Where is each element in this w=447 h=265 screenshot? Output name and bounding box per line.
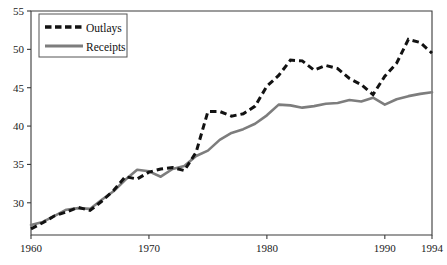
line-chart: 303540455055 19601970198019901994 Outlay… [0, 0, 447, 265]
y-tick-label: 50 [13, 43, 25, 55]
data-series-group [31, 39, 432, 228]
legend-label-receipts: Receipts [86, 41, 126, 54]
x-axis-ticks: 19601970198019901994 [20, 235, 444, 254]
chart-legend: OutlaysReceipts [39, 14, 127, 57]
x-tick-label: 1980 [256, 242, 279, 254]
x-tick-label: 1990 [374, 242, 397, 254]
chart-container: 303540455055 19601970198019901994 Outlay… [0, 0, 447, 265]
y-tick-label: 35 [13, 158, 25, 170]
y-axis-ticks: 303540455055 [13, 5, 31, 209]
x-tick-label: 1994 [421, 242, 444, 254]
y-tick-label: 45 [13, 82, 25, 94]
legend-label-outlays: Outlays [86, 22, 122, 35]
y-tick-label: 40 [13, 120, 25, 132]
y-tick-label: 55 [13, 5, 25, 17]
y-tick-label: 30 [13, 197, 25, 209]
x-tick-label: 1960 [20, 242, 43, 254]
series-line-receipts [31, 92, 432, 225]
x-tick-label: 1970 [138, 242, 161, 254]
